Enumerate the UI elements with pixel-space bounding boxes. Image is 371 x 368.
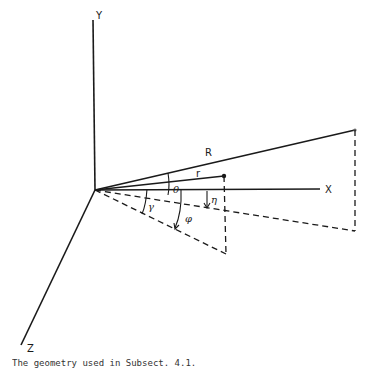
r-ground-projection xyxy=(95,190,226,254)
figure-caption: The geometry used in Subsect. 4.1. xyxy=(12,358,196,368)
y-axis xyxy=(93,20,95,190)
x-axis xyxy=(95,189,320,190)
x-axis-label: X xyxy=(325,184,332,195)
theta-arc xyxy=(168,173,169,195)
r-vertical-projection xyxy=(224,176,226,254)
phi-arc xyxy=(175,190,181,228)
R-label: R xyxy=(205,147,212,158)
z-axis-label: Z xyxy=(27,343,34,354)
coordinate-diagram: Y X Z R r θ η γ φ xyxy=(0,0,371,368)
r-vector xyxy=(95,176,224,190)
y-axis-label: Y xyxy=(95,10,103,21)
R-vector xyxy=(95,130,355,190)
gamma-label: γ xyxy=(148,201,154,212)
eta-label: η xyxy=(211,194,217,205)
phi-label: φ xyxy=(185,213,192,224)
r-label: r xyxy=(196,168,201,179)
z-axis xyxy=(21,190,95,345)
theta-label: θ xyxy=(173,184,179,195)
gamma-arc xyxy=(142,189,147,214)
